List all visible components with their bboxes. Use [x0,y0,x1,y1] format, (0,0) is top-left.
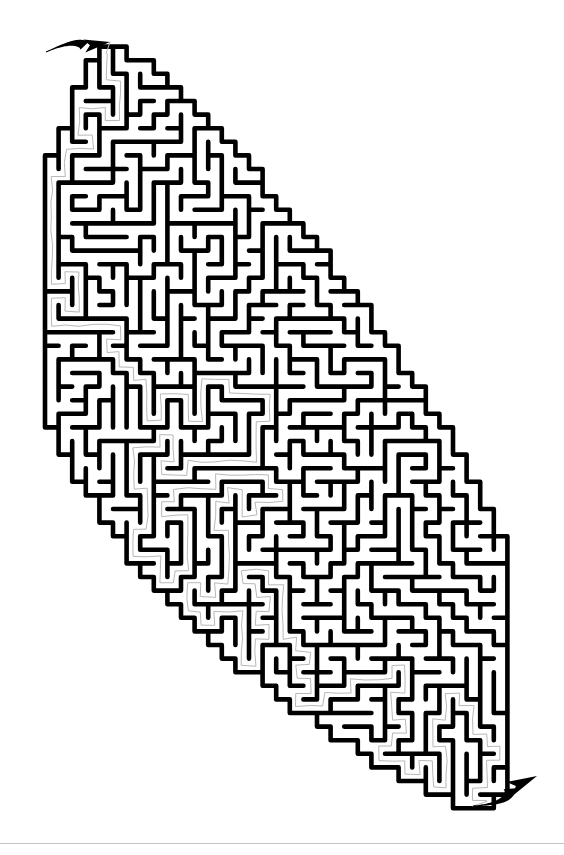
leaf-maze-figure [0,0,564,855]
footer-divider-rule [0,843,564,844]
maze-page: printable maze page [0,0,564,855]
